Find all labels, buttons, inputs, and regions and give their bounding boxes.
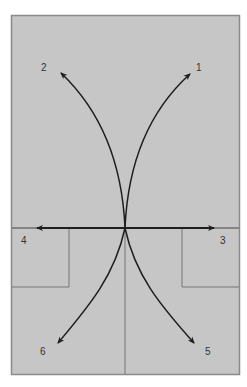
label-6: 6 [40, 346, 46, 357]
label-1: 1 [196, 62, 202, 73]
movement-diagram: 1 2 3 4 5 6 [0, 0, 247, 387]
label-3: 3 [220, 235, 226, 246]
label-2: 2 [41, 62, 47, 73]
label-5: 5 [205, 346, 211, 357]
label-4: 4 [21, 235, 27, 246]
